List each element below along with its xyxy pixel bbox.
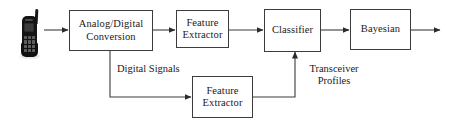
phone-key xyxy=(24,40,27,43)
edge-label-line1: Transceiver xyxy=(301,63,367,75)
node-feature-extractor-top: Feature Extractor xyxy=(176,10,229,48)
node-label-line1: Feature xyxy=(206,85,238,97)
mobile-phone-icon xyxy=(17,9,45,58)
node-feature-extractor-bottom: Feature Extractor xyxy=(192,76,253,118)
phone-key xyxy=(32,40,35,43)
phone-key xyxy=(28,40,31,43)
phone-keypad xyxy=(24,36,35,52)
edge-fe-bottom-to-classifier xyxy=(253,52,295,97)
phone-key xyxy=(32,45,35,48)
phone-key xyxy=(32,49,35,52)
node-classifier: Classifier xyxy=(264,9,321,52)
node-bayesian: Bayesian xyxy=(350,9,411,50)
phone-key xyxy=(24,36,27,39)
phone-key xyxy=(32,36,35,39)
node-label-line1: Bayesian xyxy=(361,23,400,35)
block-diagram: Analog/Digital Conversion Feature Extrac… xyxy=(0,0,462,133)
node-analog-digital-conversion: Analog/Digital Conversion xyxy=(69,10,153,51)
phone-key xyxy=(24,45,27,48)
edge-label-line2: Profiles xyxy=(301,75,367,87)
phone-earpiece xyxy=(25,19,33,21)
phone-screen xyxy=(24,23,34,32)
phone-key xyxy=(28,36,31,39)
node-label-line2: Conversion xyxy=(86,31,135,43)
edge-label-transceiver-profiles: Transceiver Profiles xyxy=(301,63,367,88)
node-label-line1: Classifier xyxy=(272,24,313,36)
node-label-line1: Analog/Digital xyxy=(79,18,143,30)
edge-label-digital-signals: Digital Signals xyxy=(117,63,180,75)
node-label-line1: Feature xyxy=(186,17,218,29)
node-label-line2: Extractor xyxy=(203,97,243,109)
phone-key xyxy=(28,45,31,48)
phone-key xyxy=(24,49,27,52)
phone-key xyxy=(28,49,31,52)
node-label-line2: Extractor xyxy=(183,29,223,41)
